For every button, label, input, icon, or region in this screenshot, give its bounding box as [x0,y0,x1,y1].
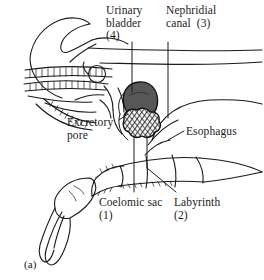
label-labyrinth-line2: (2) [174,209,188,221]
antenna-upper [25,67,112,78]
label-coelomic-sac-line2: (1) [99,209,113,221]
anatomical-figure-panel-a: Urinarybladder(4) Nephridialcanal (3) Ex… [0,0,264,280]
label-excretory-pore-line1: Excretory [67,116,113,128]
label-excretory-pore-line2: pore [67,129,88,141]
crayfish-excretory-system-drawing [0,0,264,280]
label-coelomic-sac-line1: Coelomic sac [99,196,162,208]
cheliped-proximal-segments [92,164,124,196]
label-urinary-bladder-line3: (4) [106,29,120,41]
esophagus-curve [148,100,262,145]
label-coelomic-sac: Coelomic sac(1) [99,196,162,221]
leader-esophagus [168,131,184,140]
label-nephridial-canal-line1: Nephridial [166,4,216,16]
cheliped-notches [69,186,84,201]
panel-label: (a) [24,258,37,271]
dorsal-carapace-line [88,48,262,64]
label-excretory-pore: Excretorypore [67,116,113,141]
label-esophagus: Esophagus [186,125,237,138]
label-urinary-bladder: Urinarybladder(4) [106,4,142,42]
leader-labyrinth [147,136,176,192]
antennal-scale [28,95,104,112]
label-nephridial-canal-line2: canal (3) [166,17,210,29]
label-urinary-bladder-line1: Urinary [106,4,142,16]
label-labyrinth: Labyrinth(2) [174,196,220,221]
labyrinth-shape [123,108,160,137]
label-labyrinth-line1: Labyrinth [174,196,220,208]
label-nephridial-canal: Nephridialcanal (3) [166,4,216,29]
cheliped-fixed-finger [39,208,55,262]
label-urinary-bladder-line2: bladder [106,17,141,29]
